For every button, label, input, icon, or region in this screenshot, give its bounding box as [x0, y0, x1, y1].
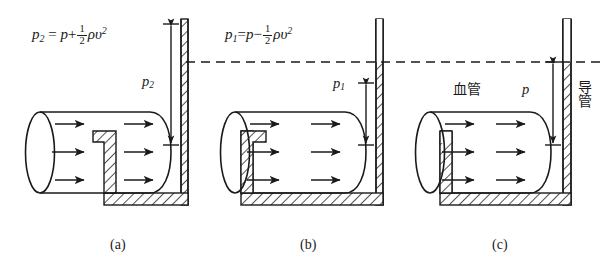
panel-b-formula-operator: − [253, 26, 261, 42]
panel-a-formula-term1: p [60, 26, 68, 42]
panel-c-riser-tube [563, 19, 571, 205]
panel-b-graphics [221, 19, 384, 205]
panel-b-formula-equals: = [238, 26, 246, 42]
panel-c-height-label: p [522, 82, 529, 97]
panel-a-formula-operator: + [68, 26, 76, 42]
panel-a-graphics [26, 19, 189, 205]
panel-a-formula: p2 = p+12ρυ2 [32, 24, 107, 46]
panel-a-formula-fraction: 12 [77, 24, 86, 46]
panel-c-vessel-label: 血管 [453, 82, 481, 96]
panel-a-formula-rho: ρ [88, 26, 95, 42]
panel-b-height-indicator [358, 83, 374, 145]
panel-c-vessel [416, 112, 552, 193]
panel-b-height-label: p1 [333, 76, 345, 93]
panel-a-pitot-probe [93, 131, 116, 193]
panel-c-height-indicator [545, 62, 561, 145]
panel-a-formula-v: υ [95, 26, 102, 42]
panel-b-caption: (b) [300, 238, 316, 252]
panel-b-formula-v-exp: 2 [287, 25, 292, 36]
panel-b-formula-fraction: 12 [263, 24, 272, 46]
panel-a-formula-lhs: p [32, 26, 40, 42]
panel-c-height-symbol: p [522, 81, 529, 97]
panel-b-formula: p1=p−12ρυ2 [225, 24, 292, 46]
panel-b-riser-tube [376, 19, 383, 205]
panel-a-height-label: p2 [142, 74, 154, 91]
panel-a-formula-v-exp: 2 [102, 25, 107, 36]
panel-a-height-sub: 2 [149, 80, 154, 90]
panel-c-caption: (c) [492, 238, 508, 252]
panel-a-formula-equals: = [48, 26, 56, 42]
panel-a-frac-num: 1 [77, 24, 86, 35]
panel-c-straight-probe [440, 131, 452, 193]
panel-a-height-indicator [163, 24, 179, 145]
panel-a-caption: (a) [110, 238, 126, 252]
panel-c-flow-arrows [442, 124, 525, 180]
panel-b-formula-lhs: p [225, 26, 233, 42]
panel-c-catheter-label: 导管 [576, 80, 591, 108]
panel-b-height-sub: 1 [340, 82, 345, 92]
panel-b-frac-den: 2 [263, 35, 272, 47]
panel-c-graphics [416, 19, 572, 205]
panel-a-riser-tube [181, 19, 188, 205]
panel-a-frac-den: 2 [77, 35, 86, 47]
fluid-pressure-diagram: p2 = p+12ρυ2 p2 p1=p−12ρυ2 p1 血管 p 导管 (a… [0, 0, 603, 273]
panel-b-frac-num: 1 [263, 24, 272, 35]
panel-a-formula-lhs-sub: 2 [40, 33, 45, 44]
panel-a-reservoir [104, 193, 188, 205]
